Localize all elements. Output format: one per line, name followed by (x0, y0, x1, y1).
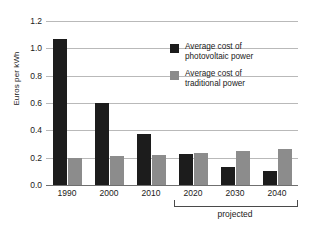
y-tick-label: 1.0 (30, 43, 42, 53)
bar-2010-photovoltaic (137, 134, 151, 185)
bar-2020-photovoltaic (179, 154, 193, 185)
projected-bracket-label: projected (218, 209, 253, 219)
legend-label-traditional-line2: traditional power (185, 79, 245, 88)
legend: Average cost of photovoltaic power Avera… (170, 42, 302, 96)
x-axis-label-2030: 2030 (226, 188, 245, 198)
bar-2010-traditional (152, 155, 166, 185)
bar-2040-traditional (278, 149, 292, 185)
x-axis-line (46, 185, 298, 186)
bar-2020-traditional (194, 153, 208, 185)
bar-2030-traditional (236, 151, 250, 185)
y-tick-label: 0.4 (30, 125, 42, 135)
legend-label-traditional: Average cost of traditional power (185, 69, 245, 89)
bar-1990-traditional (68, 158, 82, 185)
y-tick-label: 0.0 (30, 180, 42, 190)
projected-bracket (174, 200, 298, 207)
legend-label-traditional-line1: Average cost of (185, 69, 242, 78)
legend-swatch-photovoltaic-icon (170, 44, 179, 53)
bar-2040-photovoltaic (263, 171, 277, 185)
y-tick-label: 0.2 (30, 153, 42, 163)
bar-1990-photovoltaic (53, 39, 67, 185)
y-tick-label: 0.6 (30, 98, 42, 108)
legend-entry-traditional: Average cost of traditional power (170, 69, 302, 89)
bar-2030-photovoltaic (221, 167, 235, 185)
legend-label-photovoltaic-line2: photovoltaic power (185, 52, 253, 61)
y-tick-label: 1.2 (30, 16, 42, 26)
legend-label-photovoltaic: Average cost of photovoltaic power (185, 42, 253, 62)
legend-swatch-traditional-icon (170, 71, 179, 80)
legend-label-photovoltaic-line1: Average cost of (185, 42, 242, 51)
x-axis-label-2040: 2040 (268, 188, 287, 198)
x-axis-label-2000: 2000 (100, 188, 119, 198)
bar-chart: Euros per kWh 0.00.20.40.60.81.01.2 1990… (0, 0, 309, 226)
x-axis-label-2020: 2020 (184, 188, 203, 198)
y-axis-title: Euros per kWh (12, 39, 21, 119)
bar-2000-traditional (110, 156, 124, 185)
y-tick-label: 0.8 (30, 71, 42, 81)
bar-2000-photovoltaic (95, 103, 109, 185)
x-axis-label-2010: 2010 (142, 188, 161, 198)
legend-entry-photovoltaic: Average cost of photovoltaic power (170, 42, 302, 62)
x-axis-label-1990: 1990 (58, 188, 77, 198)
